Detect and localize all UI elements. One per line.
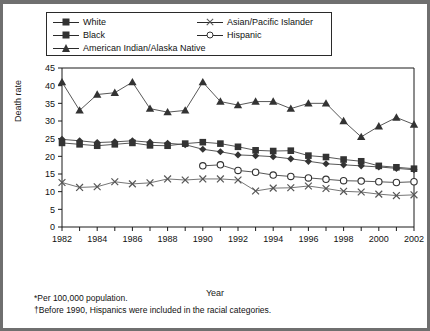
x-marker-icon [197,17,223,27]
footnotes: *Per 100,000 population. †Before 1990, H… [34,292,414,316]
svg-text:1992: 1992 [228,234,248,244]
svg-text:1998: 1998 [334,234,354,244]
svg-text:2002: 2002 [404,234,424,244]
y-axis-title: Death rate [13,61,23,141]
svg-text:1996: 1996 [298,234,318,244]
series-hispanic [200,162,418,186]
top-rule [0,0,430,4]
series-american-indian-alaska-native [58,78,418,140]
legend-item-hispanic: Hispanic [197,30,262,40]
legend-item-asian-pacific-islander: Asian/Pacific Islander [197,17,313,27]
svg-text:1986: 1986 [122,234,142,244]
svg-text:45: 45 [45,63,55,73]
svg-text:1982: 1982 [52,234,72,244]
footnote-per-population: *Per 100,000 population. [34,292,414,304]
svg-text:10: 10 [45,187,55,197]
svg-text:5: 5 [50,205,55,215]
svg-text:0: 0 [50,222,55,232]
svg-text:1994: 1994 [263,234,283,244]
legend-label-white: White [83,17,106,27]
legend-item-american-indian-alaska-native: American Indian/Alaska Native [53,43,206,53]
legend-label-hispanic: Hispanic [227,30,262,40]
svg-text:1988: 1988 [158,234,178,244]
legend-label-american-indian: American Indian/Alaska Native [83,43,206,53]
legend-item-white: White [53,17,106,27]
triangle-marker-icon [53,43,79,53]
svg-text:40: 40 [45,81,55,91]
legend-label-asian-pacific: Asian/Pacific Islander [227,17,313,27]
svg-text:1984: 1984 [87,234,107,244]
legend-label-black: Black [83,30,105,40]
svg-text:1990: 1990 [193,234,213,244]
plot-area: 0510152025303540451982198419861988199019… [0,60,430,270]
svg-text:2000: 2000 [369,234,389,244]
line-chart: 0510152025303540451982198419861988199019… [0,60,430,270]
svg-text:35: 35 [45,99,55,109]
circle-marker-icon [197,30,223,40]
chart-legend: White Black American Indian/Alaska Nativ… [46,12,332,56]
svg-text:15: 15 [45,169,55,179]
svg-text:25: 25 [45,134,55,144]
footnote-hispanic-categories: †Before 1990, Hispanics were included in… [34,304,414,316]
svg-text:30: 30 [45,116,55,126]
figure-panel: White Black American Indian/Alaska Nativ… [0,0,430,331]
square-marker-icon [53,30,79,40]
legend-item-black: Black [53,30,105,40]
svg-text:20: 20 [45,152,55,162]
diamond-marker-icon [53,17,79,27]
